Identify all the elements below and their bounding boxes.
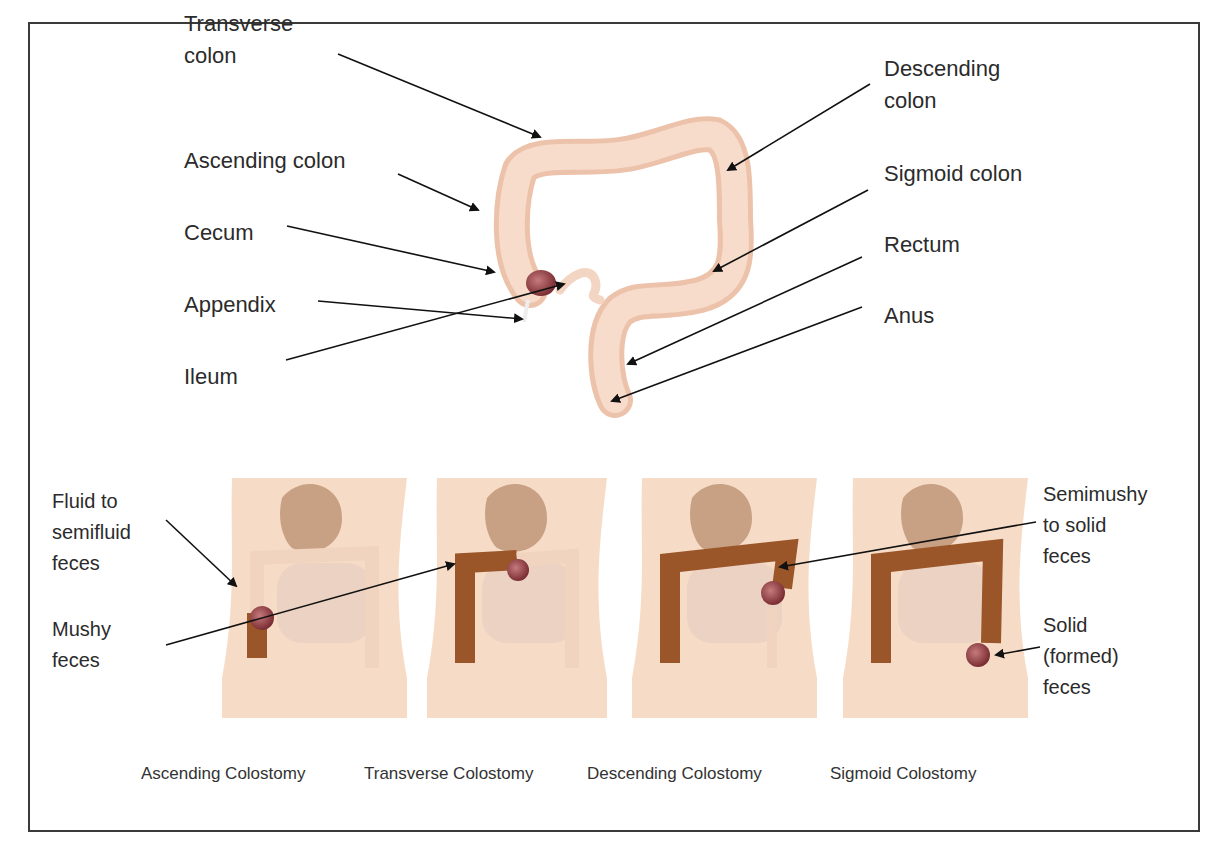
- panel-descending: [632, 478, 817, 718]
- colostomy-panels: [222, 478, 1028, 718]
- label-transverse-colon: Transverse colon: [184, 8, 293, 72]
- label-ileum: Ileum: [184, 361, 238, 393]
- label-cecum: Cecum: [184, 217, 254, 249]
- panel-ascending: [222, 478, 407, 718]
- label-mushy-feces: Mushy feces: [52, 614, 111, 676]
- caption-transverse: Transverse Colostomy: [364, 764, 533, 784]
- label-rectum: Rectum: [884, 229, 960, 261]
- label-solid-feces: Solid (formed) feces: [1043, 610, 1119, 703]
- caption-sigmoid: Sigmoid Colostomy: [830, 764, 976, 784]
- caption-descending: Descending Colostomy: [587, 764, 762, 784]
- label-semimushy-feces: Semimushy to solid feces: [1043, 479, 1147, 572]
- caption-ascending: Ascending Colostomy: [141, 764, 305, 784]
- label-appendix: Appendix: [184, 289, 276, 321]
- label-fluid-feces: Fluid to semifluid feces: [52, 486, 131, 579]
- label-anus: Anus: [884, 300, 934, 332]
- large-intestine-diagram: [512, 134, 736, 400]
- illustration: [0, 0, 1223, 858]
- label-descending-colon: Descending colon: [884, 53, 1000, 117]
- label-ascending-colon: Ascending colon: [184, 145, 345, 177]
- label-sigmoid-colon: Sigmoid colon: [884, 158, 1022, 190]
- panel-transverse: [427, 478, 607, 718]
- panel-sigmoid: [843, 478, 1028, 718]
